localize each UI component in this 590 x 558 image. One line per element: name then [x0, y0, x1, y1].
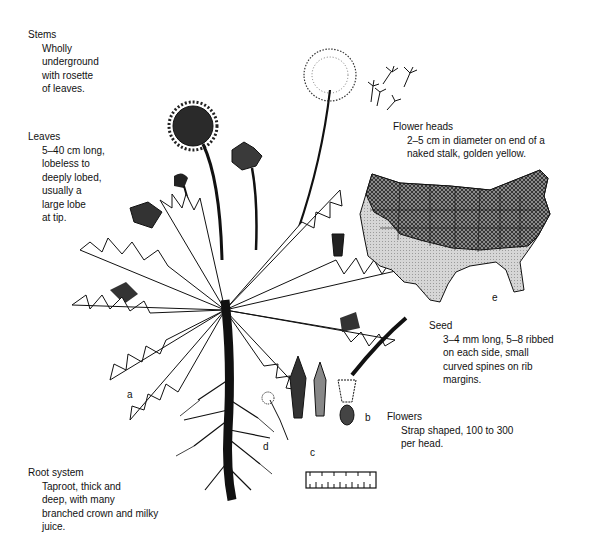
stems-line: Wholly	[28, 42, 99, 56]
seed-line: margins.	[429, 373, 554, 387]
part-label-b: b	[365, 412, 371, 423]
part-label-c: c	[310, 447, 315, 458]
flower-detail-illustration	[262, 318, 406, 440]
stems-line: underground	[28, 55, 99, 69]
seed-title: Seed	[429, 319, 554, 333]
scale-ruler	[306, 472, 376, 488]
floating-seeds-illustration	[368, 66, 417, 110]
flowers-annotation: Flowers Strap shaped, 100 to 300 per hea…	[387, 410, 513, 451]
stems-annotation: Stems Wholly underground with rosette of…	[28, 28, 99, 96]
stems-line: with rosette	[28, 69, 99, 83]
leaves-line: 5–40 cm long,	[28, 144, 105, 158]
part-label-d: d	[263, 441, 269, 452]
flower-heads-title: Flower heads	[393, 120, 545, 134]
flower-heads-line: 2–5 cm in diameter on end of a	[393, 134, 545, 148]
flowers-line: per head.	[387, 437, 513, 451]
seed-annotation: Seed 3–4 mm long, 5–8 ribbed on each sid…	[429, 319, 554, 387]
leaves-annotation: Leaves 5–40 cm long, lobeless to deeply …	[28, 130, 105, 225]
seed-line: 3–4 mm long, 5–8 ribbed	[429, 333, 554, 347]
us-distribution-map	[360, 170, 550, 302]
stems-line: of leaves.	[28, 82, 99, 96]
root-system-line: Taproot, thick and	[28, 480, 158, 494]
root-system-line: deep, with many	[28, 493, 158, 507]
root-system-title: Root system	[28, 466, 158, 480]
part-label-e: e	[492, 292, 498, 303]
stems-title: Stems	[28, 28, 99, 42]
root-system-line: branched crown and milky	[28, 507, 158, 521]
flowers-line: Strap shaped, 100 to 300	[387, 424, 513, 438]
seed-line: curved spines on rib	[429, 360, 554, 374]
flowers-title: Flowers	[387, 410, 513, 424]
flower-heads-line: naked stalk, golden yellow.	[393, 147, 545, 161]
leaves-line: deeply lobed,	[28, 171, 105, 185]
root-system-line: juice.	[28, 520, 158, 534]
root-system-annotation: Root system Taproot, thick and deep, wit…	[28, 466, 158, 534]
leaves-line: at tip.	[28, 211, 105, 225]
flower-heads-annotation: Flower heads 2–5 cm in diameter on end o…	[393, 120, 545, 161]
part-label-a: a	[127, 389, 133, 400]
leaves-title: Leaves	[28, 130, 105, 144]
seed-line: on each side, small	[429, 346, 554, 360]
leaves-line: lobeless to	[28, 157, 105, 171]
leaves-line: large lobe	[28, 198, 105, 212]
leaves-line: usually a	[28, 184, 105, 198]
